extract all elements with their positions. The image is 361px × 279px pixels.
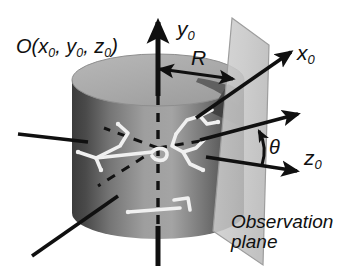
chain-node (201, 168, 205, 172)
chain-node (99, 168, 103, 172)
theta-label: θ (269, 137, 280, 158)
radius-label: R (191, 47, 206, 69)
y-axis-label: y0 (177, 18, 195, 43)
observation-plane-label-line1: Observation (231, 211, 333, 232)
z-axis-label: z0 (304, 147, 322, 172)
chain-node (76, 150, 80, 154)
x-axis-label: x0 (297, 42, 315, 67)
observation-plane-label-line2: plane (231, 232, 333, 252)
chain-node (126, 210, 130, 214)
chain-node (216, 120, 220, 124)
observation-plane-label: Observation plane (231, 212, 333, 252)
figure-cylinder-observation-plane: O(x0, y0, z0) y0 R x0 z0 θ Observation p… (0, 0, 361, 279)
origin-label: O(x0, y0, z0) (16, 36, 118, 60)
chain-node (116, 122, 120, 126)
